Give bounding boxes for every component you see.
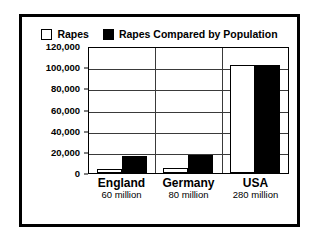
y-tick-label-60000: 60,000 (51, 106, 80, 116)
bar-group-england (89, 48, 155, 173)
bars-layer (89, 48, 288, 173)
y-tick-label-40000: 40,000 (51, 127, 80, 137)
y-axis: 120,000 100,000 80,000 60,000 40,000 20,… (22, 47, 84, 174)
hollow-square-icon (41, 29, 52, 40)
filled-square-icon (103, 29, 114, 40)
bar-england-rapes-by-population (122, 156, 147, 173)
x-category-usa: USA 280 million (222, 177, 289, 201)
x-category-sublabel-usa: 280 million (222, 190, 289, 201)
legend-label-rapes-by-population: Rapes Compared by Population (119, 29, 278, 40)
legend-label-rapes: Rapes (57, 29, 89, 40)
legend-entry-rapes: Rapes (41, 29, 89, 40)
bar-usa-rapes (230, 65, 255, 173)
chart-figure: Rapes Rapes Compared by Population 120,0… (19, 14, 300, 227)
bar-usa-rapes-by-population (255, 65, 280, 173)
bar-england-rapes (97, 169, 122, 173)
y-tick-label-20000: 20,000 (51, 148, 80, 158)
plot-area (88, 47, 289, 174)
x-category-england: England 60 million (88, 177, 155, 201)
x-axis: England 60 million Germany 80 million US… (88, 177, 289, 201)
legend-entry-rapes-by-population: Rapes Compared by Population (103, 29, 278, 40)
y-tick-label-80000: 80,000 (51, 85, 80, 95)
x-category-sublabel-england: 60 million (88, 190, 155, 201)
bar-germany-rapes (163, 168, 188, 173)
y-tick-label-0: 0 (75, 169, 80, 179)
plot-wrapper: 120,000 100,000 80,000 60,000 40,000 20,… (22, 47, 297, 197)
bar-germany-rapes-by-population (188, 155, 213, 173)
bar-group-usa (222, 48, 288, 173)
x-category-sublabel-germany: 80 million (155, 190, 222, 201)
bar-group-germany (155, 48, 221, 173)
y-tick-label-120000: 120,000 (46, 42, 80, 52)
y-tick-label-100000: 100,000 (46, 63, 80, 73)
x-category-germany: Germany 80 million (155, 177, 222, 201)
